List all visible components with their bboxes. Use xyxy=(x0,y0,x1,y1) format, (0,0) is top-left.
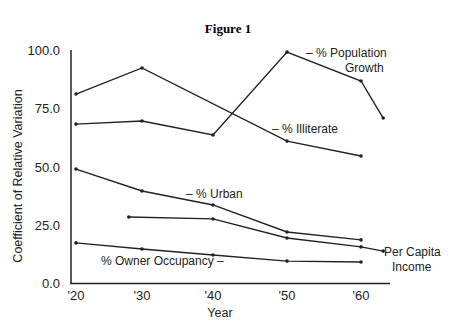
y-tick-label: 75.0 xyxy=(35,101,60,116)
label-per-capita-2: Income xyxy=(392,260,432,274)
data-point xyxy=(140,189,144,193)
data-point xyxy=(285,230,289,234)
y-tick-label: 25.0 xyxy=(35,218,60,233)
data-point xyxy=(359,245,363,249)
axes xyxy=(70,50,390,284)
y-tick-label: 50.0 xyxy=(35,160,60,175)
series-labels: – % Population Growth – % Illiterate – %… xyxy=(101,46,441,274)
series-lines xyxy=(74,50,385,264)
x-tick-label: '60 xyxy=(353,288,370,303)
data-point xyxy=(211,217,215,221)
y-axis-label: Coefficient of Relative Variation xyxy=(11,89,25,262)
x-tick-labels: '20'30'40'50'60 xyxy=(68,288,370,303)
x-tick-label: '50 xyxy=(279,288,296,303)
data-point xyxy=(140,66,144,70)
data-point xyxy=(381,116,385,120)
y-tick-label: 0.0 xyxy=(42,276,60,291)
label-population-growth-1: – % Population xyxy=(306,46,387,60)
x-axis-label: Year xyxy=(207,306,232,320)
data-point xyxy=(140,119,144,123)
x-tick-label: '30 xyxy=(134,288,151,303)
data-point xyxy=(285,236,289,240)
data-point xyxy=(140,247,144,251)
series-line xyxy=(76,169,361,240)
line-chart: Figure 1 0.025.050.075.0100.0 '20'30'40'… xyxy=(0,0,457,332)
x-tick-label: '20 xyxy=(68,288,85,303)
data-point xyxy=(285,50,289,54)
data-point xyxy=(359,79,363,83)
data-point xyxy=(74,92,78,96)
data-point xyxy=(211,133,215,137)
series-illiterate xyxy=(74,66,363,158)
series-urban xyxy=(74,167,363,241)
data-point xyxy=(359,154,363,158)
data-point xyxy=(359,238,363,242)
label-per-capita-1: Per Capita xyxy=(384,245,441,259)
data-point xyxy=(211,203,215,207)
data-point xyxy=(285,139,289,143)
y-tick-labels: 0.025.050.075.0100.0 xyxy=(27,43,60,291)
y-tick-label: 100.0 xyxy=(27,43,60,58)
data-point xyxy=(359,260,363,264)
data-point xyxy=(74,122,78,126)
series-line xyxy=(76,68,361,156)
data-point xyxy=(285,259,289,263)
chart-title: Figure 1 xyxy=(205,21,251,36)
x-tick-label: '40 xyxy=(205,288,222,303)
series-line xyxy=(129,217,383,251)
series-population-growth xyxy=(74,50,385,137)
label-owner-occupancy: % Owner Occupancy – xyxy=(101,254,224,268)
label-urban: – % Urban xyxy=(186,187,243,201)
data-point xyxy=(74,167,78,171)
label-population-growth-2: Growth xyxy=(345,61,384,75)
data-point xyxy=(74,241,78,245)
label-illiterate: – % Illiterate xyxy=(272,122,338,136)
data-point xyxy=(127,215,131,219)
